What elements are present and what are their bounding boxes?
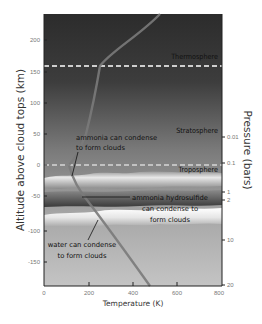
thermosphere-label: Thermosphere (170, 52, 218, 61)
y-tick-100: 100 (30, 100, 41, 106)
ammonia-annotation-line1: ammonia can condense (76, 134, 157, 142)
y-axis-title: Altitude above cloud tops (km) (14, 69, 26, 231)
water-annotation-line2: to form clouds (58, 252, 107, 260)
y-axis-tick-labels: 200 150 100 50 0 -50 -100 -150 (28, 37, 41, 265)
water-annotation-line1: water can condense (48, 241, 117, 249)
x-axis-title: Temperature (K) (102, 299, 164, 308)
stratosphere-label: Stratosphere (176, 126, 218, 135)
atmosphere-chart: Thermosphere Stratosphere Troposphere am… (0, 0, 262, 324)
y-tick-200: 200 (30, 37, 41, 43)
p-tick-2: 2 (227, 197, 231, 203)
nh4sh-annotation-line1: ammonia hydrosulfide (132, 194, 208, 202)
x-axis-tick-labels: 0 200 400 600 800 (42, 290, 224, 296)
y-tick-50: 50 (33, 131, 40, 137)
x-tick-0: 0 (42, 290, 46, 296)
pressure-axis-title: Pressure (bars) (242, 110, 254, 189)
x-tick-600: 600 (172, 290, 183, 296)
pressure-axis-tick-labels: 0.01 0.1 1 2 10 20 (227, 134, 239, 288)
y-tick-minus50: -50 (31, 193, 40, 199)
nh4sh-annotation-line3: form clouds (150, 216, 190, 224)
y-tick-minus150: -150 (28, 259, 41, 265)
p-tick-20: 20 (227, 282, 234, 288)
x-tick-400: 400 (128, 290, 139, 296)
y-tick-150: 150 (30, 69, 41, 75)
ammonia-annotation-line2: to form clouds (76, 144, 125, 152)
y-tick-0: 0 (37, 162, 41, 168)
nh4sh-annotation-line2: can condense to (142, 205, 198, 213)
p-tick-0.01: 0.01 (227, 134, 239, 140)
x-tick-800: 800 (214, 290, 225, 296)
x-tick-200: 200 (84, 290, 95, 296)
p-tick-10: 10 (227, 237, 234, 243)
p-tick-1: 1 (227, 189, 231, 195)
p-tick-0.1: 0.1 (227, 160, 236, 166)
y-tick-minus100: -100 (28, 228, 41, 234)
troposphere-label: Troposphere (178, 165, 218, 174)
